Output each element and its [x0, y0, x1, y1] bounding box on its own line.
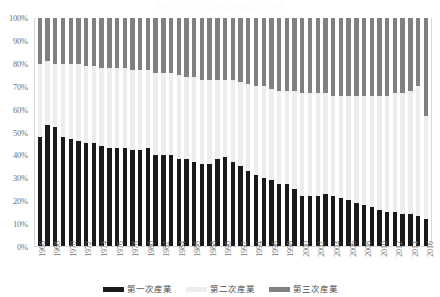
legend-item[interactable]: 第二次産業 [186, 285, 255, 294]
bar-segment-primary [53, 127, 57, 246]
bar-column [190, 18, 198, 246]
chart-legend: 第一次産業第二次産業第三次産業 [0, 282, 440, 296]
bar-segment-tertiary [200, 18, 204, 80]
bar-segment-tertiary [393, 18, 397, 93]
bar-segment-tertiary [177, 18, 181, 75]
bar-segment-secondary [416, 86, 420, 216]
bar-segment-tertiary [331, 18, 335, 96]
bar-column [360, 18, 368, 246]
bar-segment-tertiary [223, 18, 227, 80]
x-axis-tick: 1972 [82, 248, 90, 278]
bar-segment-secondary [99, 68, 103, 146]
bar-column [337, 18, 345, 246]
x-axis-tick: 2010 [377, 248, 385, 278]
x-axis-tick: 1984 [175, 248, 183, 278]
bar-segment-tertiary [424, 18, 428, 116]
bar-segment-tertiary [370, 18, 374, 96]
bar-segment-primary [184, 159, 188, 246]
bar-stack [393, 18, 397, 246]
bar-segment-secondary [362, 96, 366, 205]
bar-column [51, 18, 59, 246]
bar-segment-secondary [354, 96, 358, 203]
bar-segment-tertiary [362, 18, 366, 96]
x-axis-tick: 1982 [159, 248, 167, 278]
bar-segment-tertiary [308, 18, 312, 93]
bar-segment-tertiary [339, 18, 343, 96]
bar-segment-tertiary [45, 18, 49, 61]
bar-segment-tertiary [138, 18, 142, 70]
x-axis-tick [369, 248, 377, 278]
x-axis-tick: 1990 [221, 248, 229, 278]
bar-stack [223, 18, 227, 246]
bar-segment-tertiary [408, 18, 412, 91]
bar-stack [45, 18, 49, 246]
y-axis-tick-label: 60% [13, 105, 28, 114]
bar-segment-secondary [130, 70, 134, 150]
bar-stack [161, 18, 165, 246]
bar-stack [238, 18, 242, 246]
bar-segment-tertiary [146, 18, 150, 70]
bar-stack [354, 18, 358, 246]
bar-stack [92, 18, 96, 246]
legend-item[interactable]: 第三次産業 [269, 285, 338, 294]
x-axis-tick [136, 248, 144, 278]
y-axis-tick-label: 10% [13, 220, 28, 229]
bar-segment-secondary [393, 93, 397, 212]
stacked-bar-chart: 産業三部門別就業者数構成比の推移 100%90%80%70%60%50%40%3… [0, 0, 440, 297]
bar-column [144, 18, 152, 246]
bar-segment-primary [346, 200, 350, 246]
bar-segment-primary [323, 194, 327, 246]
bar-segment-secondary [153, 73, 157, 155]
bar-segment-tertiary [323, 18, 327, 93]
legend-item[interactable]: 第一次産業 [103, 285, 172, 294]
bar-segment-primary [169, 155, 173, 246]
bar-stack [61, 18, 65, 246]
bar-stack [99, 18, 103, 246]
bar-column [399, 18, 407, 246]
bar-column [252, 18, 260, 246]
bar-column [82, 18, 90, 246]
bar-column [275, 18, 283, 246]
bar-stack [246, 18, 250, 246]
bar-segment-primary [231, 162, 235, 246]
bar-stack [84, 18, 88, 246]
bar-column [229, 18, 237, 246]
bar-stack [231, 18, 235, 246]
bar-stack [400, 18, 404, 246]
bar-segment-tertiary [246, 18, 250, 84]
bar-segment-primary [200, 164, 204, 246]
bar-segment-primary [207, 164, 211, 246]
bar-segment-secondary [238, 82, 242, 166]
x-axis-tick [229, 248, 237, 278]
bar-stack [416, 18, 420, 246]
bar-segment-secondary [184, 77, 188, 159]
x-axis-tick: 1970 [66, 248, 74, 278]
bar-segment-tertiary [184, 18, 188, 77]
bar-segment-secondary [53, 64, 57, 128]
x-axis-tick-label: 2016 [427, 241, 435, 257]
bar-segment-tertiary [231, 18, 235, 80]
bar-column [152, 18, 160, 246]
bar-segment-primary [38, 137, 42, 246]
bar-segment-primary [177, 159, 181, 246]
bar-segment-secondary [285, 91, 289, 184]
bar-segment-tertiary [277, 18, 281, 91]
bar-stack [207, 18, 211, 246]
bar-segment-tertiary [76, 18, 80, 64]
bar-stack [385, 18, 389, 246]
bar-segment-primary [331, 196, 335, 246]
bar-stack [316, 18, 320, 246]
bar-column [244, 18, 252, 246]
bar-segment-tertiary [115, 18, 119, 68]
x-axis-tick: 1966 [35, 248, 43, 278]
bar-segment-secondary [169, 73, 173, 155]
bar-column [260, 18, 268, 246]
bar-column [206, 18, 214, 246]
bar-segment-tertiary [269, 18, 273, 89]
bar-segment-primary [130, 150, 134, 246]
x-axis-tick: 2000 [299, 248, 307, 278]
bar-column [113, 18, 121, 246]
x-axis-tick: 1986 [190, 248, 198, 278]
bar-segment-primary [354, 203, 358, 246]
x-axis-tick [276, 248, 284, 278]
